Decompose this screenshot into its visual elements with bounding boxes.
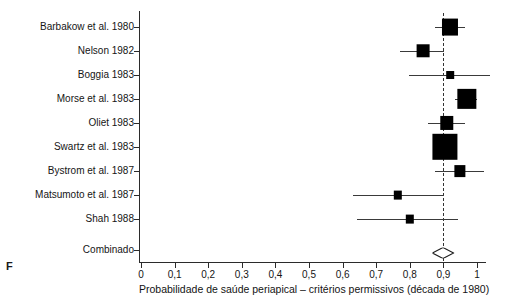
plot-area: 00,10,20,30,40,50,60,70,80,91 xyxy=(0,0,506,301)
y-axis-tick xyxy=(134,51,140,52)
x-axis-tick xyxy=(242,263,243,268)
summary-diamond xyxy=(433,245,454,256)
x-axis-tick-label: 0,3 xyxy=(235,269,249,280)
x-axis-tick xyxy=(309,263,310,268)
y-axis-tick xyxy=(134,75,140,76)
point-estimate-marker xyxy=(394,191,402,200)
y-axis-tick xyxy=(134,147,140,148)
x-axis-tick xyxy=(343,263,344,268)
x-axis-tick-label: 0,2 xyxy=(201,269,215,280)
y-axis-tick xyxy=(134,195,140,196)
y-axis-tick xyxy=(134,219,140,220)
x-axis-tick xyxy=(376,263,377,268)
x-axis-tick-label: 0,1 xyxy=(168,269,182,280)
point-estimate-marker xyxy=(455,165,466,177)
x-axis-tick xyxy=(275,263,276,268)
x-axis-tick xyxy=(208,263,209,268)
y-axis-tick xyxy=(134,99,140,100)
y-axis-tick xyxy=(134,123,140,124)
point-estimate-marker xyxy=(442,19,458,36)
x-axis-tick-label: 0,5 xyxy=(302,269,316,280)
x-axis-tick xyxy=(175,263,176,268)
point-estimate-marker xyxy=(406,215,414,224)
point-estimate-marker xyxy=(440,116,453,130)
forest-plot-figure: F Barbakow et al. 1980Nelson 1982Boggia … xyxy=(0,0,506,301)
x-axis-tick xyxy=(477,263,478,268)
x-axis-tick xyxy=(443,263,444,268)
x-axis-tick xyxy=(410,263,411,268)
x-axis-tick-label: 0,7 xyxy=(369,269,383,280)
x-axis-tick-label: 0,8 xyxy=(403,269,417,280)
point-estimate-marker xyxy=(446,71,454,79)
x-axis-tick-label: 0,9 xyxy=(436,269,450,280)
point-estimate-marker xyxy=(457,89,476,109)
point-estimate-marker xyxy=(433,134,458,160)
y-axis-tick-summary xyxy=(134,250,140,251)
x-axis-line xyxy=(139,262,486,263)
x-axis-tick-label: 1 xyxy=(474,269,480,280)
x-axis-tick-label: 0,6 xyxy=(336,269,350,280)
x-axis-tick-label: 0 xyxy=(138,269,144,280)
y-axis-tick xyxy=(134,171,140,172)
x-axis-title: Probabilidade de saúde periapical – crit… xyxy=(139,283,486,295)
x-axis-tick-label: 0,4 xyxy=(268,269,282,280)
x-axis-tick xyxy=(141,263,142,268)
y-axis-line xyxy=(139,11,140,263)
y-axis-tick xyxy=(134,27,140,28)
point-estimate-marker xyxy=(417,44,430,57)
